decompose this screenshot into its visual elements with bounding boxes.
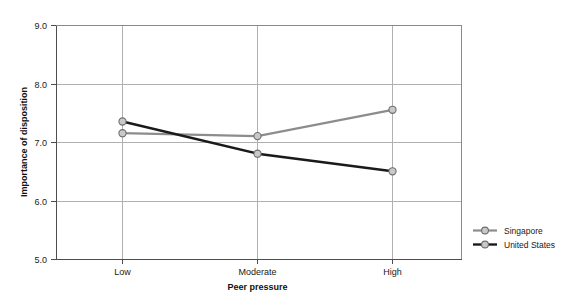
chart-figure: 9.0 8.0 7.0 6.0 5.0 Low Moderate High Pe… [0, 0, 581, 307]
x-tick-label: Low [114, 267, 131, 277]
legend-marker-united-states [482, 241, 489, 248]
chart-background [0, 0, 581, 307]
data-point-united-states-high [389, 168, 396, 175]
y-axis-title: Importance of disposition [19, 87, 29, 197]
x-tick-label: Moderate [238, 267, 276, 277]
data-point-singapore-low [119, 130, 126, 137]
legend-label-singapore: Singapore [504, 226, 543, 236]
data-point-united-states-moderate [254, 150, 261, 157]
x-axis-title: Peer pressure [227, 282, 287, 292]
legend-marker-singapore [482, 227, 489, 234]
y-tick-label: 8.0 [34, 80, 47, 90]
data-point-united-states-low [119, 118, 126, 125]
y-tick-label: 5.0 [34, 255, 47, 265]
y-tick-label: 7.0 [34, 138, 47, 148]
data-point-singapore-high [389, 106, 396, 113]
y-tick-label: 6.0 [34, 197, 47, 207]
data-point-singapore-moderate [254, 133, 261, 140]
line-chart: 9.0 8.0 7.0 6.0 5.0 Low Moderate High Pe… [0, 0, 581, 307]
x-tick-label: High [383, 267, 402, 277]
y-tick-label: 9.0 [34, 21, 47, 31]
legend-label-united-states: United States [504, 240, 555, 250]
